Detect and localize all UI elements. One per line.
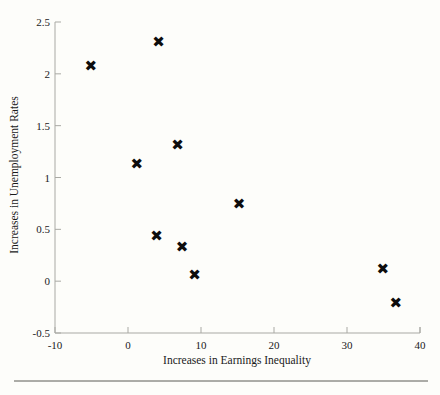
y-tick-label: -0.5 xyxy=(33,327,51,339)
y-axis-title: Increases in Unemployment Rates xyxy=(8,96,21,254)
data-point-marker: ✖ xyxy=(84,57,97,75)
data-point-marker: ✖ xyxy=(130,155,143,173)
y-tick-label: 0 xyxy=(45,275,51,287)
scatter-plot-figure: -0.500.511.522.5 -10010203040 ✖✖✖✖✖✖✖✖✖✖… xyxy=(0,0,440,395)
y-tick-label: 2 xyxy=(45,68,51,80)
y-tick-label: 1 xyxy=(45,172,51,184)
data-point-group: ✖✖✖✖✖✖✖✖✖✖ xyxy=(84,33,402,312)
x-tick-label: 10 xyxy=(196,339,208,351)
chart-canvas: -0.500.511.522.5 -10010203040 ✖✖✖✖✖✖✖✖✖✖… xyxy=(0,0,440,395)
x-axis-tick-labels: -10010203040 xyxy=(48,339,426,351)
y-tick-label: 2.5 xyxy=(36,16,50,28)
data-point-marker: ✖ xyxy=(152,33,165,51)
x-axis-ticks xyxy=(55,327,420,333)
data-point-marker: ✖ xyxy=(188,266,201,284)
x-tick-label: 20 xyxy=(269,339,281,351)
data-point-marker: ✖ xyxy=(233,195,246,213)
x-tick-label: 30 xyxy=(342,339,354,351)
y-tick-label: 0.5 xyxy=(36,223,50,235)
x-tick-label: 40 xyxy=(415,339,427,351)
x-tick-label: -10 xyxy=(48,339,63,351)
y-axis-tick-labels: -0.500.511.522.5 xyxy=(33,16,51,339)
data-point-marker: ✖ xyxy=(176,238,189,256)
x-tick-label: 0 xyxy=(125,339,131,351)
data-point-marker: ✖ xyxy=(150,227,163,245)
data-point-marker: ✖ xyxy=(390,294,403,312)
y-axis-ticks xyxy=(55,22,61,333)
x-axis-title: Increases in Earnings Inequality xyxy=(163,354,311,367)
data-point-marker: ✖ xyxy=(376,260,389,278)
data-point-marker: ✖ xyxy=(171,136,184,154)
y-tick-label: 1.5 xyxy=(36,120,50,132)
